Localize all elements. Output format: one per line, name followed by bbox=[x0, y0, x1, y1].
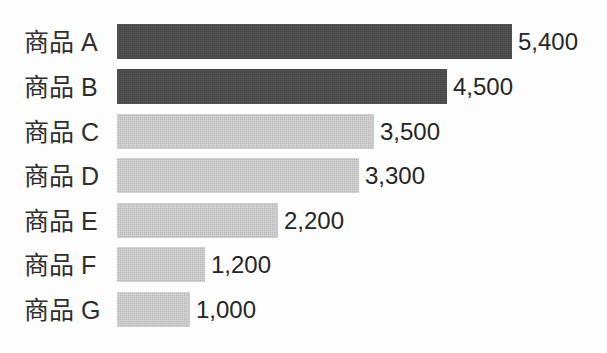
bar-track bbox=[117, 203, 278, 238]
category-label: 商品 B bbox=[24, 74, 116, 99]
bar-chart: 商品 A5,400商品 B4,500商品 C3,500商品 D3,300商品 E… bbox=[0, 0, 607, 353]
category-label: 商品 C bbox=[24, 119, 116, 144]
bar-value-label: 1,000 bbox=[196, 298, 256, 322]
category-label: 商品 E bbox=[24, 208, 116, 233]
bar-track bbox=[117, 114, 374, 149]
bar-row: 商品 E2,200 bbox=[0, 203, 607, 238]
bar-chart-rows: 商品 A5,400商品 B4,500商品 C3,500商品 D3,300商品 E… bbox=[0, 0, 607, 353]
bar-value-label: 3,300 bbox=[365, 164, 425, 188]
category-label: 商品 F bbox=[24, 252, 116, 277]
category-label: 商品 D bbox=[24, 163, 116, 188]
bar-row: 商品 D3,300 bbox=[0, 158, 607, 193]
bar bbox=[117, 247, 205, 282]
bar-track bbox=[117, 24, 512, 59]
bar-row: 商品 B4,500 bbox=[0, 69, 607, 104]
bar bbox=[117, 114, 374, 149]
bar bbox=[117, 292, 190, 327]
bar bbox=[117, 69, 447, 104]
bar-track bbox=[117, 69, 447, 104]
bar bbox=[117, 24, 512, 59]
bar-track bbox=[117, 247, 205, 282]
category-label: 商品 G bbox=[24, 297, 116, 322]
bar-row: 商品 A5,400 bbox=[0, 24, 607, 59]
bar-row: 商品 G1,000 bbox=[0, 292, 607, 327]
bar-value-label: 5,400 bbox=[518, 30, 578, 54]
category-label: 商品 A bbox=[24, 29, 116, 54]
bar-track bbox=[117, 158, 359, 193]
bar-value-label: 2,200 bbox=[284, 209, 344, 233]
bar-track bbox=[117, 292, 190, 327]
bar bbox=[117, 203, 278, 238]
bar-value-label: 1,200 bbox=[211, 253, 271, 277]
bar-row: 商品 C3,500 bbox=[0, 114, 607, 149]
bar bbox=[117, 158, 359, 193]
bar-value-label: 4,500 bbox=[453, 75, 513, 99]
bar-value-label: 3,500 bbox=[380, 120, 440, 144]
bar-row: 商品 F1,200 bbox=[0, 247, 607, 282]
